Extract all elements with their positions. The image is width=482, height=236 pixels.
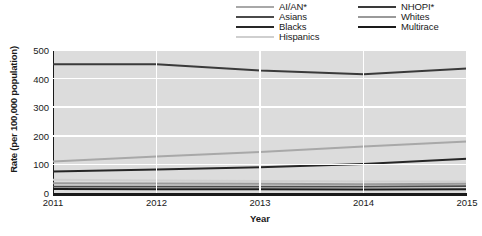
legend-item[interactable]: Multirace — [358, 22, 480, 32]
x-axis-tick-label: 2015 — [456, 197, 477, 208]
legend-swatch-line-icon — [358, 16, 396, 18]
y-axis-title: Rate (per 100,000 population) — [8, 35, 19, 185]
plot-area: 0100200300400500 — [53, 50, 467, 193]
legend-swatch-line-icon — [358, 6, 396, 8]
legend-item-label: Multirace — [401, 22, 439, 32]
x-axis-tick-label: 2011 — [43, 197, 63, 208]
chart-container: Rate (per 100,000 population) 0100200300… — [0, 44, 482, 236]
legend-column-right: NHOPI*WhitesMultirace — [358, 2, 480, 42]
legend-item[interactable]: Hispanics — [236, 32, 358, 42]
gridline-vertical — [156, 50, 158, 193]
legend-swatch-line-icon — [236, 16, 274, 18]
x-axis-line — [53, 193, 467, 196]
y-axis-tick-label: 300 — [33, 102, 49, 113]
chart-legend: AI/AN*AsiansBlacksHispanics NHOPI*Whites… — [236, 2, 480, 42]
legend-swatch-line-icon — [358, 26, 396, 28]
y-axis-tick-label: 400 — [33, 73, 49, 84]
x-axis-tick-label: 2014 — [353, 197, 374, 208]
x-axis-tick-label: 2012 — [146, 197, 167, 208]
legend-swatch-line-icon — [236, 6, 274, 8]
x-axis-title: Year — [53, 213, 467, 224]
y-axis-tick-label: 100 — [33, 159, 49, 170]
gridline-vertical — [363, 50, 365, 193]
y-axis-tick-label: 200 — [33, 130, 49, 141]
y-axis-tick-label: 500 — [33, 45, 49, 56]
legend-swatch-line-icon — [236, 26, 274, 28]
legend-swatch-line-icon — [236, 36, 274, 38]
gridline-vertical — [259, 50, 261, 193]
x-axis-tick-label: 2013 — [249, 197, 270, 208]
legend-item-label: Hispanics — [279, 32, 319, 42]
legend-column-left: AI/AN*AsiansBlacksHispanics — [236, 2, 358, 42]
gridline-vertical — [466, 50, 468, 193]
